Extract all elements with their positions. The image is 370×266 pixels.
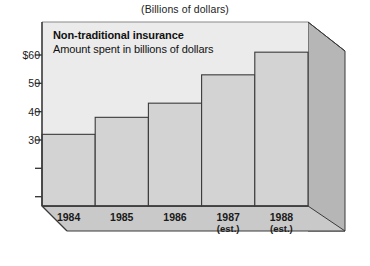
x-axis-label-1986-year: 1986 [163, 211, 186, 223]
x-axis-label-1987: 1987 (est.) [202, 211, 255, 234]
x-axis-label-1985-year: 1985 [110, 211, 133, 223]
x-axis-label-1984-year: 1984 [57, 211, 80, 223]
x-axis-label-1987-year: 1987 [217, 211, 240, 223]
chart-figure: (Billions of dollars) [0, 0, 370, 266]
x-axis-label-1986: 1986 [148, 211, 201, 223]
chart-x-axis-labels: 1984 1985 1986 1987 (est.) 1988 (est.) [0, 0, 370, 266]
x-axis-label-1988: 1988 (est.) [255, 211, 308, 234]
x-axis-label-1985: 1985 [95, 211, 148, 223]
x-axis-label-1988-note: (est.) [255, 223, 308, 234]
x-axis-label-1984: 1984 [42, 211, 95, 223]
x-axis-label-1988-year: 1988 [270, 211, 293, 223]
x-axis-label-1987-note: (est.) [202, 223, 255, 234]
